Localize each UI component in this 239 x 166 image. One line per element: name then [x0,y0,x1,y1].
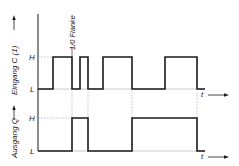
top-panel: 1/0 Flanke H L Eingang C (1) t [10,14,229,99]
bottom-level-high: H [29,114,35,123]
timing-diagram: 1/0 Flanke H L Eingang C (1) t H L Ausga… [0,0,239,166]
bottom-time-arrowhead-icon [224,155,229,158]
edge-guides [72,89,197,118]
bottom-time-label: t [201,152,204,161]
top-time-label: t [201,90,204,99]
bottom-y-arrowhead-icon [12,105,15,110]
output-waveform [38,118,205,151]
bottom-panel: H L Ausgang Q t [10,89,229,161]
top-level-high: H [29,53,35,62]
annotation-flanke: 1/0 Flanke [68,15,77,50]
top-y-arrowhead-icon [12,15,15,20]
top-y-label: Eingang C (1) [10,45,19,95]
top-time-arrowhead-icon [224,93,229,96]
bottom-level-low: L [30,147,34,156]
input-waveform [38,57,205,89]
bottom-y-label: Ausgang Q [10,118,19,159]
top-level-low: L [30,85,34,94]
